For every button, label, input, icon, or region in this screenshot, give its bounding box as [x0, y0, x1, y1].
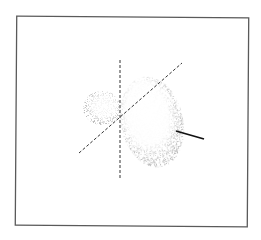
lobes-group [83, 71, 192, 174]
orbital-diagram [0, 0, 261, 240]
diagram-canvas [0, 0, 261, 240]
large-lobe [112, 71, 192, 174]
small-lobe [83, 91, 121, 125]
